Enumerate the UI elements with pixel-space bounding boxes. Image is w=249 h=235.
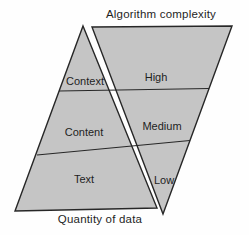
level-label-context: Context bbox=[66, 75, 104, 87]
level-label-medium: Medium bbox=[142, 120, 181, 132]
level-label-low: Low bbox=[154, 174, 174, 186]
quantity-of-data-caption: Quantity of data bbox=[58, 213, 143, 225]
level-label-content: Content bbox=[65, 126, 104, 138]
level-label-text: Text bbox=[74, 173, 94, 185]
level-label-high: High bbox=[145, 71, 168, 83]
pyramid-diagram: Context Content Text High Medium Low Alg… bbox=[0, 0, 249, 235]
algorithm-complexity-caption: Algorithm complexity bbox=[106, 8, 216, 20]
pyramid-diagram-canvas: Context Content Text High Medium Low Alg… bbox=[0, 0, 249, 235]
